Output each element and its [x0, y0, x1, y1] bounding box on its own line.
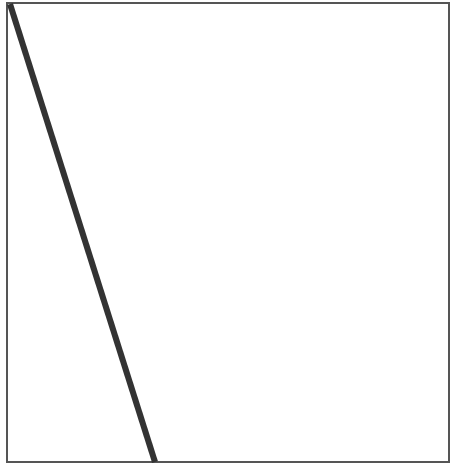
square-frame [7, 3, 449, 462]
diagonal-line [10, 4, 155, 462]
diagram-canvas [0, 0, 458, 473]
